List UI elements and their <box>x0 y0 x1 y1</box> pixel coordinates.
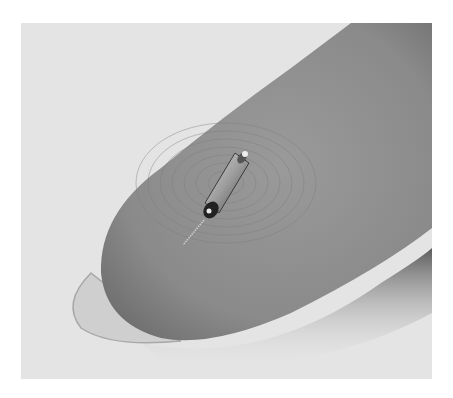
photo <box>21 23 432 379</box>
fingertip-photo <box>21 23 432 379</box>
